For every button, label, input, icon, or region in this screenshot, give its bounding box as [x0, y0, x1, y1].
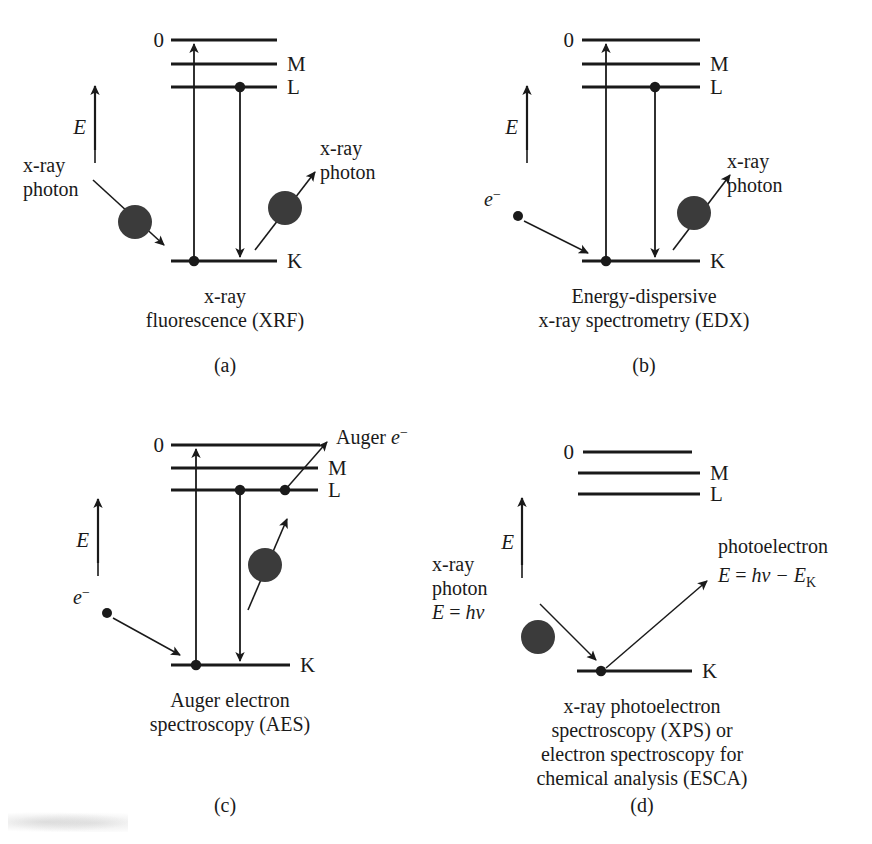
outgoing-photon-label-line2-a: photon [320, 161, 376, 184]
energy-axis-a: E [72, 86, 95, 163]
electron-dot-K-d [596, 666, 606, 676]
transition-photoelectron-ejection-d [606, 581, 707, 668]
outgoing-photon-b [673, 175, 730, 250]
incoming-electron-label-base-b: e [484, 188, 493, 210]
panel-c: E 0 M L K Auger e− [73, 425, 408, 817]
outgoing-photon-label-line1-a: x-ray [320, 137, 362, 160]
level-label-zero-a: 0 [154, 28, 165, 52]
energy-axis-b: E [504, 86, 527, 163]
level-label-K-b: K [710, 249, 725, 273]
photoelectron-equation-d: E=hν−EK [717, 564, 816, 590]
level-label-zero-d: 0 [564, 440, 575, 464]
incoming-eq-h-d: h [466, 601, 476, 623]
incoming-photon-label-line2-a: photon [23, 178, 79, 201]
caption-line4-d: chemical analysis (ESCA) [536, 767, 747, 790]
figure-root: E 0 M L K x-ray photon [0, 0, 872, 844]
incoming-photon-a [93, 180, 164, 245]
panel-d: E 0 M L K x-ray photon E=hν photoel [431, 440, 828, 817]
electron-dot-L-b [650, 82, 660, 92]
out-eq-sub-d: K [806, 575, 816, 590]
auger-electron-label-sup-c: − [400, 425, 408, 440]
electron-particle-b [513, 211, 523, 221]
electron-dot-L-a [235, 82, 245, 92]
photon-circle-outgoing-c [248, 548, 282, 582]
caption-line1-d: x-ray photoelectron [563, 695, 720, 718]
energy-axis-label-c: E [75, 528, 89, 552]
electron-dot-L-outer-c [280, 485, 290, 495]
panel-a: E 0 M L K x-ray photon [23, 28, 376, 377]
caption-line1-a: x-ray [204, 285, 246, 308]
out-eq-minus-d: − [776, 564, 787, 586]
caption-line1-b: Energy-dispersive [571, 285, 716, 308]
panel-label-b: (b) [632, 354, 655, 377]
outgoing-photon-a [255, 172, 315, 250]
outgoing-photon-label-line2-b: photon [727, 174, 783, 197]
level-label-L-b: L [710, 75, 723, 99]
photon-circle-outgoing-b [677, 196, 711, 230]
level-label-M-b: M [710, 52, 729, 76]
photoelectron-label-d: photoelectron [718, 535, 828, 558]
caption-line1-c: Auger electron [170, 689, 289, 712]
electron-dot-K-b [601, 256, 611, 266]
auger-electron-label-italic-c: e [391, 426, 400, 448]
incoming-electron-label-c: e− [73, 585, 90, 608]
level-label-M-c: M [328, 456, 347, 480]
out-eq-var-d: E [717, 564, 730, 586]
incoming-electron-label-sup-c: − [82, 585, 90, 600]
photon-circle-incoming-a [118, 205, 152, 239]
photon-circle-incoming-d [521, 620, 555, 654]
electron-particle-c [102, 608, 112, 618]
level-label-M-a: M [287, 52, 306, 76]
level-label-K-a: K [287, 249, 302, 273]
incoming-electron-label-b: e− [484, 187, 501, 210]
photon-circle-outgoing-a [268, 191, 302, 225]
panel-b: E 0 M L K e− [484, 28, 783, 377]
energy-axis-label-d: E [500, 530, 514, 554]
transition-auger-ejection-c [285, 442, 327, 490]
level-label-zero-c: 0 [154, 433, 165, 457]
level-label-L-d: L [710, 482, 723, 506]
energy-axis-d: E [500, 498, 522, 578]
spectroscopy-diagram: E 0 M L K x-ray photon [0, 0, 872, 844]
caption-line2-b: x-ray spectrometry (EDX) [538, 309, 749, 332]
outgoing-photon-label-line1-b: x-ray [727, 150, 769, 173]
incoming-photon-label-line1-d: x-ray [432, 553, 474, 576]
electron-dot-L-inner-c [235, 485, 245, 495]
incoming-electron-label-base-c: e [73, 586, 82, 608]
outgoing-photon-c [248, 519, 287, 610]
panel-label-a: (a) [214, 354, 236, 377]
caption-line2-d: spectroscopy (XPS) or [551, 719, 732, 742]
incoming-eq-var-d: E [431, 601, 444, 623]
energy-axis-label-a: E [72, 115, 86, 139]
caption-line2-c: spectroscopy (AES) [150, 713, 311, 736]
out-eq-equals-d: = [735, 564, 746, 586]
incoming-photon-d [521, 604, 596, 660]
level-label-K-d: K [702, 659, 717, 683]
incoming-eq-nu-d: ν [476, 601, 485, 623]
electron-dot-K-a [189, 256, 199, 266]
electron-dot-K-c [191, 660, 201, 670]
out-eq-nu-d: ν [762, 564, 771, 586]
level-label-zero-b: 0 [564, 28, 575, 52]
level-label-L-c: L [328, 478, 341, 502]
incoming-electron-c [102, 608, 180, 655]
level-label-L-a: L [287, 75, 300, 99]
level-label-K-c: K [300, 653, 315, 677]
auger-electron-label-text-c: Auger [336, 426, 391, 449]
out-eq-h-d: h [752, 564, 762, 586]
incoming-photon-label-line2-d: photon [432, 577, 488, 600]
incoming-electron-b [513, 211, 588, 253]
incoming-eq-equals-d: = [449, 601, 460, 623]
caption-line3-d: electron spectroscopy for [541, 743, 743, 766]
incoming-electron-label-sup-b: − [493, 187, 501, 202]
energy-axis-label-b: E [504, 115, 518, 139]
out-eq-termE-d: E [793, 564, 806, 586]
incoming-photon-equation-d: E=hν [431, 601, 485, 623]
incoming-photon-label-line1-a: x-ray [23, 154, 65, 177]
panel-label-c: (c) [214, 794, 236, 817]
auger-electron-label-c: Auger e− [336, 425, 408, 449]
caption-line2-a: fluorescence (XRF) [146, 309, 304, 332]
panel-label-d: (d) [630, 794, 653, 817]
energy-axis-c: E [75, 499, 98, 576]
